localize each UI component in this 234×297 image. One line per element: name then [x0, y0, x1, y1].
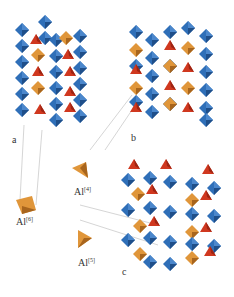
label-al6-main: Al	[16, 216, 26, 227]
label-al5-sup: [5]	[88, 257, 95, 263]
panel-a-structure	[15, 15, 87, 127]
panel-label-b: b	[131, 132, 136, 143]
label-al4-main: Al	[74, 186, 84, 197]
label-al4: Al[4]	[74, 186, 91, 197]
label-al4-sup: [4]	[84, 186, 91, 192]
al5-bipyramid	[78, 230, 92, 248]
al4-tetrahedron	[72, 162, 88, 178]
panel-b-structure	[129, 21, 213, 127]
crystal-structure-figure	[0, 0, 234, 297]
label-al6-sup: [6]	[26, 216, 33, 222]
panel-c-structure	[121, 159, 221, 271]
panel-label-a: a	[12, 134, 16, 145]
panel-label-c: c	[122, 266, 126, 277]
al6-octahedron	[16, 196, 36, 214]
label-al6: Al[6]	[16, 216, 33, 227]
label-al5-main: Al	[78, 257, 88, 268]
label-al5: Al[5]	[78, 257, 95, 268]
